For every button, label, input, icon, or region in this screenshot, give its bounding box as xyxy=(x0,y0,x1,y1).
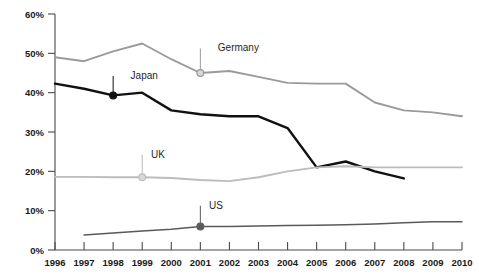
x-tick-label: 1998 xyxy=(103,257,124,268)
marker-uk xyxy=(139,174,146,181)
y-tick-label: 60% xyxy=(25,9,45,20)
y-axis: 0%10%20%30%40%50%60% xyxy=(25,9,55,256)
series-line-japan xyxy=(55,84,404,179)
x-tick-label: 2005 xyxy=(306,257,328,268)
y-tick-label: 30% xyxy=(25,127,45,138)
y-tick-label: 10% xyxy=(25,205,45,216)
series-label-us: US xyxy=(209,200,223,211)
y-tick-label: 0% xyxy=(30,245,44,256)
chart-canvas: 0%10%20%30%40%50%60% 1996199719981999200… xyxy=(0,0,479,280)
x-tick-label: 2010 xyxy=(451,257,472,268)
marker-germany xyxy=(197,70,204,77)
series-label-japan: Japan xyxy=(131,70,158,81)
x-tick-label: 2007 xyxy=(364,257,385,268)
series-line-us xyxy=(84,222,462,235)
marker-japan xyxy=(110,92,117,99)
line-chart: 0%10%20%30%40%50%60% 1996199719981999200… xyxy=(0,0,479,280)
x-tick-label: 2003 xyxy=(248,257,269,268)
x-tick-label: 2000 xyxy=(161,257,182,268)
series-label-germany: Germany xyxy=(218,42,259,53)
x-tick-label: 2008 xyxy=(393,257,414,268)
y-tick-label: 20% xyxy=(25,166,45,177)
x-tick-label: 2002 xyxy=(219,257,240,268)
x-tick-label: 2004 xyxy=(277,257,299,268)
x-tick-label: 2001 xyxy=(190,257,212,268)
y-tick-label: 40% xyxy=(25,87,45,98)
x-tick-label: 1999 xyxy=(132,257,153,268)
series-line-germany xyxy=(55,44,462,117)
marker-us xyxy=(197,223,204,230)
x-tick-label: 1996 xyxy=(44,257,65,268)
x-axis: 1996199719981999200020012002200320042005… xyxy=(44,242,472,268)
x-tick-label: 2009 xyxy=(422,257,443,268)
x-tick-label: 2006 xyxy=(335,257,356,268)
series-annotations: GermanyJapanUKUS xyxy=(110,42,259,229)
y-tick-label: 50% xyxy=(25,48,45,59)
series-label-uk: UK xyxy=(151,149,165,160)
x-tick-label: 1997 xyxy=(74,257,95,268)
series-lines xyxy=(55,44,462,236)
